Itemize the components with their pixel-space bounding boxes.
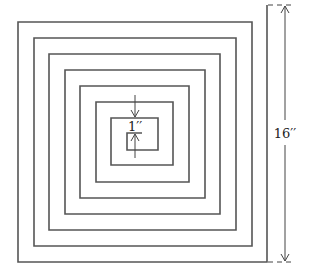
spacing-dimension-label: 1′′ (128, 119, 142, 134)
spiral-diagram: 16′′ 1′′ (0, 0, 310, 276)
spacing-dimension: 1′′ (128, 95, 142, 158)
overall-dimension: 16′′ (268, 5, 296, 262)
overall-dimension-label: 16′′ (274, 126, 296, 141)
square-spiral-line (18, 5, 267, 262)
